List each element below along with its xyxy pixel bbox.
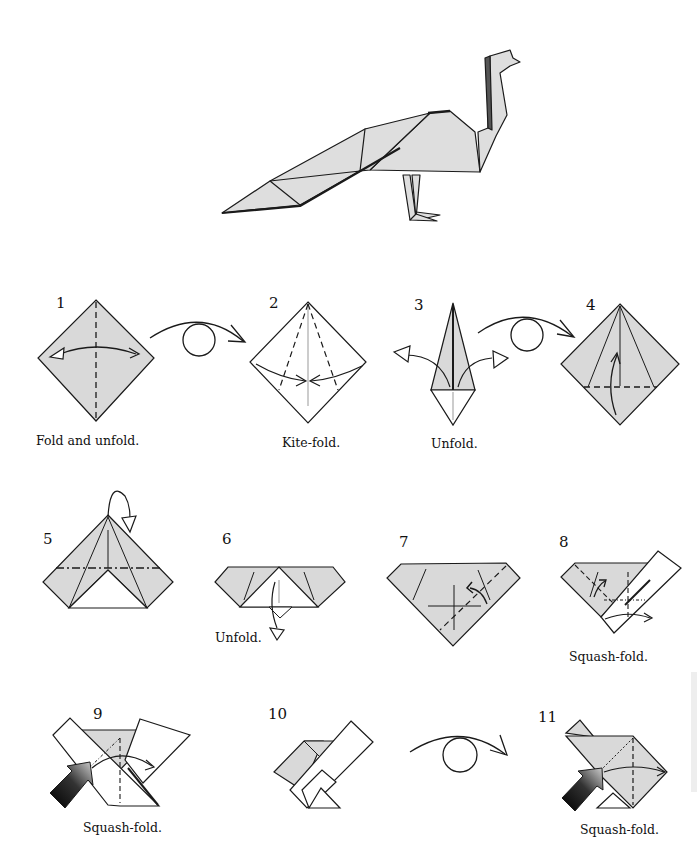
step-10-diagram: [274, 721, 373, 808]
diagram-canvas: [0, 0, 697, 841]
step-5-diagram: [43, 491, 173, 608]
step-number-7: 7: [399, 533, 409, 551]
step-11-caption: Squash-fold.: [580, 822, 659, 837]
step-3-caption: Unfold.: [431, 436, 478, 451]
step-number-2: 2: [269, 294, 279, 312]
step-number-3: 3: [414, 296, 424, 314]
step-6-caption: Unfold.: [215, 630, 262, 645]
step-number-4: 4: [586, 296, 596, 314]
step-11-diagram: [562, 720, 667, 811]
step-1-caption: Fold and unfold.: [36, 433, 139, 448]
step-number-6: 6: [222, 530, 232, 548]
step-number-10: 10: [268, 705, 287, 723]
step-2-diagram: [250, 302, 366, 423]
page-edge-shadow: [691, 672, 697, 792]
turn-over-arrow-icon: [150, 322, 245, 356]
step-number-8: 8: [559, 533, 569, 551]
step-2-caption: Kite-fold.: [282, 435, 340, 450]
step-1-diagram: [38, 300, 154, 421]
step-4-diagram: [561, 304, 679, 425]
step-9-diagram: [50, 718, 190, 808]
step-3-diagram: [394, 303, 508, 425]
turn-over-arrow-icon: [410, 735, 507, 772]
step-number-5: 5: [43, 530, 53, 548]
step-8-diagram: [561, 551, 681, 633]
push-arrow-icon: [50, 762, 93, 808]
step-9-caption: Squash-fold.: [83, 820, 162, 835]
step-number-11: 11: [538, 708, 557, 726]
step-number-1: 1: [56, 294, 66, 312]
step-number-9: 9: [93, 705, 103, 723]
turn-over-arrow-icon: [478, 317, 574, 351]
peacock-model: [222, 50, 520, 221]
step-8-caption: Squash-fold.: [569, 649, 648, 664]
push-arrow-icon: [562, 768, 603, 811]
step-7-diagram: [387, 563, 520, 646]
